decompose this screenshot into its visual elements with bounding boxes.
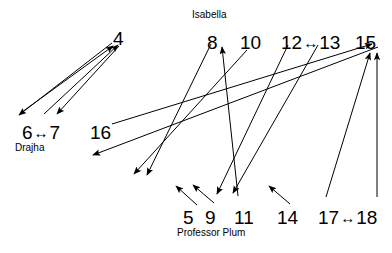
node-pair-17-18[interactable]: 17↔18	[318, 208, 377, 227]
person-label-isabella: Isabella	[192, 10, 226, 20]
edge-arrow	[326, 53, 370, 197]
node-pair-12-13[interactable]: 12↔13	[281, 33, 340, 52]
node-label-5[interactable]: 5	[183, 208, 194, 227]
bidirectional-arrow-icon: ↔	[303, 33, 318, 52]
edge-arrow	[193, 185, 214, 203]
node-label-17[interactable]: 17	[318, 208, 339, 227]
node-label-7[interactable]: 7	[50, 123, 61, 142]
bidirectional-arrow-icon: ↔	[34, 123, 49, 142]
node-label-8[interactable]: 8	[207, 33, 218, 52]
node-label-12[interactable]: 12	[281, 33, 302, 52]
person-label-professor-plum: Professor Plum	[177, 228, 245, 238]
edge-arrow	[233, 45, 318, 193]
diagram-canvas: 481012↔13156↔71659111417↔18 Isabella Dra…	[0, 0, 392, 253]
node-label-9[interactable]: 9	[205, 208, 216, 227]
node-label-18[interactable]: 18	[356, 208, 377, 227]
edge-arrow	[147, 44, 211, 175]
node-label-4[interactable]: 4	[113, 29, 124, 48]
edge-arrow	[176, 186, 197, 205]
edge-arrow	[217, 45, 288, 194]
person-label-drajha: Drajha	[15, 143, 44, 153]
node-label-11[interactable]: 11	[234, 208, 254, 227]
edge-arrow	[269, 186, 290, 204]
edge-arrow	[44, 45, 118, 114]
edge-group	[19, 43, 378, 205]
node-label-6[interactable]: 6	[22, 123, 33, 142]
node-pair-6-7[interactable]: 6↔7	[22, 123, 60, 142]
node-label-14[interactable]: 14	[277, 208, 298, 227]
node-label-13[interactable]: 13	[319, 33, 340, 52]
node-label-15[interactable]: 15	[355, 33, 376, 52]
node-label-10[interactable]: 10	[240, 33, 261, 52]
bidirectional-arrow-icon: ↔	[340, 208, 355, 227]
node-label-16[interactable]: 16	[90, 123, 111, 142]
